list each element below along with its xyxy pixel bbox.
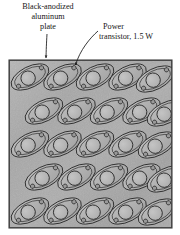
plate-label-line-1: Black-anodized <box>0 2 96 12</box>
plate-mask-left <box>0 60 9 228</box>
figure-root: Black-anodized aluminum plate Power tran… <box>0 0 180 235</box>
transistor-label: Power transistor, 1.5 W <box>99 22 180 42</box>
plate-mask-top <box>0 52 180 60</box>
plate-mask-right <box>172 60 180 228</box>
plate-label-line-2: aluminum <box>0 12 96 22</box>
plate-label: Black-anodized aluminum plate <box>0 2 96 33</box>
plate-mask-bottom <box>0 228 180 235</box>
transistor-label-line-2: transistor, 1.5 W <box>99 32 180 42</box>
power-transistor-array <box>7 58 180 230</box>
transistor-label-line-1: Power <box>99 22 180 32</box>
plate-label-line-3: plate <box>0 22 96 32</box>
